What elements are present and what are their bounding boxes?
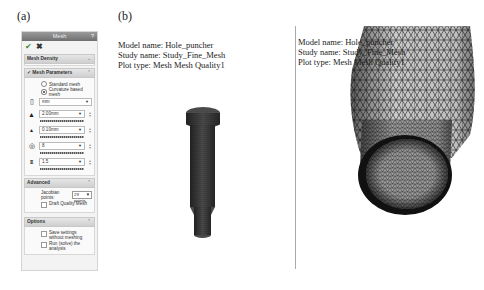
growth-ratio-icon: ⩩: [27, 158, 36, 167]
checkbox[interactable]: [41, 231, 47, 237]
section-options[interactable]: Options ⌃: [24, 217, 95, 227]
mesh-property-panel: Mesh ? ✔ ✖ Mesh Density ⌄ ✓ Mesh Paramet…: [21, 31, 98, 271]
jacobian-row: Jacobian points: 29 points▼: [27, 190, 92, 200]
radio-button[interactable]: [41, 81, 47, 87]
cancel-x-icon[interactable]: ✖: [36, 43, 43, 51]
section-mesh-parameters[interactable]: ✓ Mesh Parameters ⌃: [24, 68, 95, 78]
plot-info-b: Model name: Hole_puncher Study name: Stu…: [118, 40, 225, 70]
chevron-up-icon[interactable]: ⌃: [87, 179, 91, 187]
growth-ratio-slider[interactable]: [40, 168, 84, 170]
mesh-density-body: [24, 64, 95, 66]
section-advanced[interactable]: Advanced ⌃: [24, 178, 95, 188]
min-element-size-input[interactable]: 0.10mm▼: [39, 126, 85, 134]
radio-label: Curvature based mesh: [49, 87, 92, 97]
input-value: 1.5: [42, 159, 48, 164]
checkbox[interactable]: [41, 202, 47, 208]
max-element-size-icon: ▲: [27, 110, 36, 119]
select-value: 29 points: [74, 192, 86, 203]
radio-label: Standard mesh: [49, 82, 80, 87]
checkbox-label: Run (solve) the analysis: [49, 241, 92, 251]
input-value: 2.00mm: [42, 111, 59, 116]
dropdown-arrow-icon: ▼: [78, 159, 82, 165]
study-name: Study name: Study_Fine_Mesh: [298, 47, 405, 57]
min-elements-circle-input[interactable]: 8▼: [39, 142, 85, 150]
unit-row: ▯ mm▼: [27, 96, 92, 108]
dropdown-arrow-icon: ▼: [78, 111, 82, 117]
help-icon[interactable]: ?: [91, 32, 94, 41]
chevron-up-icon[interactable]: ⌃: [87, 218, 91, 226]
circle-elements-icon: ◎: [27, 142, 36, 151]
min-elements-circle-slider[interactable]: [40, 152, 84, 154]
input-value: 8: [42, 143, 45, 148]
plot-type: Plot type: Mesh Mesh Quality1: [298, 57, 405, 67]
max-element-size-input[interactable]: 2.00mm▼: [39, 110, 85, 118]
min-element-size-slider[interactable]: [40, 136, 84, 138]
save-settings-option[interactable]: Save settings without meshing: [27, 230, 92, 240]
plot-type: Plot type: Mesh Mesh Quality1: [118, 60, 225, 70]
spinner[interactable]: ▴▾: [88, 127, 92, 134]
radio-curvature-based-mesh[interactable]: Curvature based mesh: [27, 88, 92, 96]
radio-button[interactable]: [41, 89, 47, 95]
jacobian-select[interactable]: 29 points▼: [72, 191, 92, 199]
min-element-size-row: ▲ 0.10mm▼ ▴▾: [27, 124, 92, 136]
hole-puncher-mesh-model: [180, 105, 230, 240]
growth-ratio-row: ⩩ 1.5▼ ▴▾: [27, 156, 92, 168]
spinner[interactable]: ▴▾: [88, 159, 92, 166]
chevron-down-icon[interactable]: ⌄: [87, 55, 91, 63]
spinner[interactable]: ▴▾: [88, 111, 92, 118]
min-elements-circle-row: ◎ 8▼ ▴▾: [27, 140, 92, 152]
section-mesh-density[interactable]: Mesh Density ⌄: [24, 54, 95, 64]
model-name: Model name: Hole_puncher: [298, 37, 405, 47]
unit-select[interactable]: mm▼: [39, 98, 92, 106]
dropdown-arrow-icon: ▼: [78, 127, 82, 133]
dropdown-arrow-icon: ▼: [86, 192, 90, 198]
max-element-size-row: ▲ 2.00mm▼ ▴▾: [27, 108, 92, 120]
ok-checkmark-icon[interactable]: ✔: [25, 43, 32, 51]
select-value: mm: [42, 99, 50, 104]
run-analysis-option[interactable]: Run (solve) the analysis: [27, 241, 92, 251]
options-body: Save settings without meshing Run (solve…: [24, 227, 95, 255]
plot-info-zoomed: Model name: Hole_puncher Study name: Stu…: [298, 37, 405, 67]
figure-label-a: (a): [17, 9, 30, 24]
dropdown-arrow-icon: ▼: [78, 143, 82, 149]
input-value: 0.10mm: [42, 127, 59, 132]
panel-title-bar: Mesh ?: [22, 32, 97, 41]
chevron-up-icon[interactable]: ⌃: [87, 69, 91, 77]
advanced-body: Jacobian points: 29 points▼ Draft Qualit…: [24, 188, 95, 213]
vertical-divider: [295, 26, 296, 269]
mesh-parameters-body: Standard mesh Curvature based mesh ▯ mm▼…: [24, 78, 95, 176]
model-name: Model name: Hole_puncher: [118, 40, 225, 50]
spinner[interactable]: ▴▾: [88, 143, 92, 150]
section-title: Mesh Parameters: [32, 70, 72, 75]
ok-cancel-row: ✔ ✖: [22, 41, 97, 52]
panel-title: Mesh: [53, 33, 66, 39]
ruler-icon: ▯: [27, 98, 36, 107]
section-title: Mesh Density: [27, 56, 58, 61]
checkbox-label: Save settings without meshing: [49, 230, 92, 240]
growth-ratio-input[interactable]: 1.5▼: [39, 158, 85, 166]
jacobian-label: Jacobian points:: [41, 190, 69, 200]
dropdown-arrow-icon: ▼: [85, 99, 89, 105]
checkbox[interactable]: [41, 242, 47, 248]
section-title: Options: [27, 219, 45, 224]
section-title: Advanced: [27, 180, 50, 185]
min-element-size-icon: ▲: [27, 126, 36, 135]
figure-label-b: (b): [118, 9, 132, 24]
study-name: Study name: Study_Fine_Mesh: [118, 50, 225, 60]
max-element-size-slider[interactable]: [40, 120, 84, 122]
